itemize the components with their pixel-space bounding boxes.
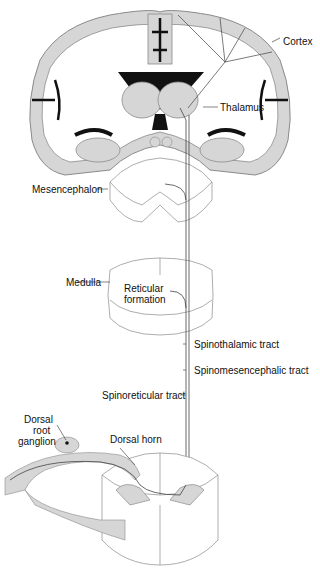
label-spinomesencephalic-tract: Spinomesencephalic tract [194,365,309,376]
label-mesencephalon: Mesencephalon [32,184,103,195]
label-dorsal-root-ganglion-1: Dorsal [24,414,53,425]
mesencephalon-section [110,158,212,222]
spinal-cord-section [102,453,218,565]
label-thalamus: Thalamus [220,102,264,113]
label-dorsal-root-ganglion-3: ganglion [18,436,56,447]
label-cortex: Cortex [283,36,312,47]
label-medulla: Medulla [66,277,101,288]
label-dorsal-horn: Dorsal horn [110,434,162,445]
label-spinothalamic-tract: Spinothalamic tract [194,339,279,350]
label-dorsal-root-ganglion-2: root [33,425,50,436]
label-reticular-formation-1: Reticular [124,283,163,294]
label-reticular-formation-2: formation [124,294,166,305]
brain-coronal-section [30,11,290,175]
label-spinoreticular-tract: Spinoreticular tract [102,390,185,401]
